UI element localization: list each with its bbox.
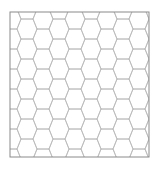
- hexagon-grid-figure: [0, 0, 156, 173]
